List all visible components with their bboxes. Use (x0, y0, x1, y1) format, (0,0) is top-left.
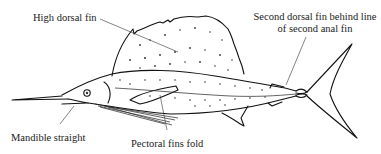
leader-high-dorsal-fin (100, 19, 178, 52)
label-pectoral-fins-fold: Pectoral fins fold (131, 138, 203, 150)
mandible-outline (62, 99, 88, 104)
leader-pectoral (160, 95, 167, 130)
label-second-dorsal-line2: of second anal fin (250, 23, 380, 35)
body-upper-outline (62, 70, 296, 95)
caudal-fin (307, 44, 357, 138)
leader-mandible (60, 106, 74, 124)
label-second-dorsal-line1: Second dorsal fin behind line (250, 11, 380, 23)
lateral-line (115, 88, 296, 96)
caudal-keels (296, 89, 307, 97)
body-lower-outline (88, 96, 296, 114)
label-second-dorsal-fin: Second dorsal fin behind line of second … (250, 11, 380, 35)
bill (12, 96, 68, 100)
label-mandible-straight: Mandible straight (11, 132, 85, 144)
sailfish-diagram: High dorsal fin Second dorsal fin behind… (0, 0, 381, 154)
leader-second-dorsal (286, 37, 306, 85)
dorsal-fin-outline (112, 16, 244, 76)
gill-cover (104, 82, 110, 103)
label-high-dorsal-fin: High dorsal fin (33, 12, 97, 24)
pectoral-fin (130, 86, 178, 104)
